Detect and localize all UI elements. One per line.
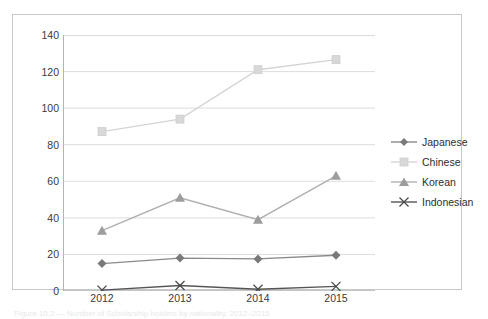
y-axis-labels: 140 120 100 80 60 40 20 0 — [13, 15, 59, 291]
y-tick-label: 140 — [41, 30, 59, 41]
x-tick-label: 2013 — [168, 293, 191, 304]
chart-legend: Japanese Chinese Korea — [391, 132, 488, 212]
series-korean — [97, 171, 341, 235]
chart-page: 140 120 100 80 60 40 20 0 — [0, 0, 488, 319]
legend-marker-x-icon — [391, 195, 417, 209]
legend-item-chinese[interactable]: Chinese — [391, 152, 488, 172]
figure-frame: 140 120 100 80 60 40 20 0 — [12, 14, 462, 290]
x-tick-label: 2012 — [90, 293, 113, 304]
series-japanese — [98, 251, 341, 268]
legend-marker-square-icon — [391, 155, 417, 169]
series-indonesian — [98, 281, 341, 291]
legend-item-indonesian[interactable]: Indonesian — [391, 192, 488, 212]
y-tick-label: 100 — [41, 103, 59, 114]
figure-caption: Figure 10.2 — Number of Scholarship hold… — [14, 309, 474, 319]
legend-marker-triangle-icon — [391, 175, 417, 189]
y-tick-label: 80 — [47, 139, 59, 150]
series-chinese — [98, 56, 340, 136]
legend-label: Indonesian — [422, 197, 473, 208]
legend-label: Korean — [422, 177, 456, 188]
y-tick-label: 0 — [53, 286, 59, 297]
legend-marker-diamond-icon — [391, 135, 417, 149]
legend-item-korean[interactable]: Korean — [391, 172, 488, 192]
plot-area — [63, 35, 375, 291]
y-tick-label: 60 — [47, 176, 59, 187]
legend-label: Chinese — [422, 157, 461, 168]
legend-label: Japanese — [422, 137, 468, 148]
x-tick-label: 2014 — [246, 293, 269, 304]
y-tick-label: 20 — [47, 249, 59, 260]
y-tick-label: 120 — [41, 66, 59, 77]
gridlines — [63, 36, 375, 255]
x-tick-label: 2015 — [324, 293, 347, 304]
legend-item-japanese[interactable]: Japanese — [391, 132, 488, 152]
chart-canvas — [63, 35, 375, 291]
y-tick-label: 40 — [47, 213, 59, 224]
